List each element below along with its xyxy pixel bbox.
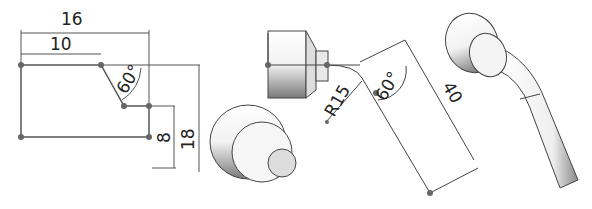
cad-diagram: 16 10 60° 8 18 R15 60° 40 <box>0 0 592 209</box>
dim-40: 40 <box>439 78 467 107</box>
dim-8: 8 <box>154 132 174 143</box>
profile-sketch <box>21 30 200 172</box>
dim-r15: R15 <box>320 81 354 120</box>
dim-angle-60: 60° <box>112 61 144 97</box>
dim-angle-60-b: 60° <box>371 68 403 104</box>
dim-18: 18 <box>178 128 198 150</box>
dim-10: 10 <box>50 34 72 54</box>
dim-16: 16 <box>61 9 83 29</box>
part-3d-cylinder <box>210 105 296 182</box>
